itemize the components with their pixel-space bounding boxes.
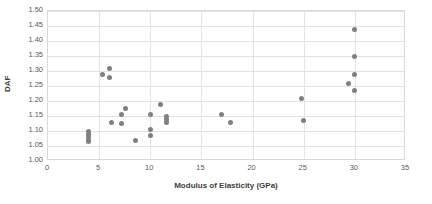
gridline-vertical <box>304 11 305 159</box>
x-axis-tick-label: 30 <box>339 163 369 173</box>
y-axis-tick-label: 1.45 <box>3 21 43 29</box>
gridline-vertical <box>99 11 100 159</box>
y-axis-title: DAF <box>2 64 14 104</box>
data-point <box>299 96 304 101</box>
data-point <box>119 121 124 126</box>
data-point <box>301 118 306 123</box>
y-axis-tick-label: 1.40 <box>3 36 43 44</box>
gridline-vertical <box>355 11 356 159</box>
data-point <box>352 88 357 93</box>
x-axis-tick-label: 25 <box>288 163 318 173</box>
data-point <box>164 120 169 125</box>
y-axis-tick-label: 1.05 <box>3 141 43 149</box>
data-point <box>107 66 112 71</box>
data-point <box>109 120 114 125</box>
gridline-horizontal <box>48 41 404 42</box>
y-axis-tick-label: 1.10 <box>3 126 43 134</box>
x-axis-tick-label: 10 <box>134 163 164 173</box>
data-point <box>86 139 91 144</box>
data-point <box>148 112 153 117</box>
data-point <box>148 133 153 138</box>
data-point <box>228 120 233 125</box>
data-point <box>100 72 105 77</box>
x-axis-tick-label: 5 <box>83 163 113 173</box>
data-point <box>107 75 112 80</box>
x-axis-title: Modulus of Elasticity (GPa) <box>47 181 405 190</box>
y-axis-tick-label: 1.35 <box>3 51 43 59</box>
y-axis-tick-label: 1.15 <box>3 111 43 119</box>
y-axis-tick-label: 1.50 <box>3 6 43 14</box>
gridline-horizontal <box>48 146 404 147</box>
x-axis-tick-labels: 05101520253035 <box>47 163 405 175</box>
gridline-horizontal <box>48 26 404 27</box>
x-axis-tick-label: 15 <box>185 163 215 173</box>
gridline-vertical <box>201 11 202 159</box>
data-point <box>123 106 128 111</box>
gridline-horizontal <box>48 56 404 57</box>
gridline-horizontal <box>48 116 404 117</box>
data-point <box>133 138 138 143</box>
plot-area <box>47 10 405 160</box>
x-axis-tick-label: 35 <box>390 163 420 173</box>
data-point <box>148 127 153 132</box>
gridline-vertical <box>253 11 254 159</box>
x-axis-tick-label: 20 <box>237 163 267 173</box>
data-point <box>158 102 163 107</box>
scatter-chart: 1.001.051.101.151.201.251.301.351.401.45… <box>0 0 432 204</box>
gridline-horizontal <box>48 101 404 102</box>
data-point <box>352 54 357 59</box>
data-point <box>352 27 357 32</box>
data-point <box>346 81 351 86</box>
gridline-horizontal <box>48 11 404 12</box>
x-axis-tick-label: 0 <box>32 163 62 173</box>
gridline-horizontal <box>48 86 404 87</box>
data-point <box>352 72 357 77</box>
gridline-horizontal <box>48 131 404 132</box>
